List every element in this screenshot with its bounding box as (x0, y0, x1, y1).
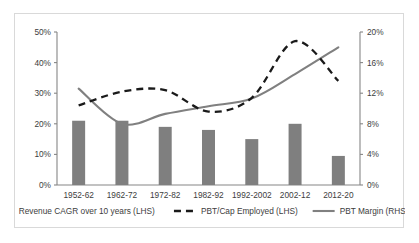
line-series-pbt-margin (79, 47, 339, 124)
x-axis-category-labels: 1952-621962-721972-821982-921992-2002200… (63, 190, 354, 200)
chart-legend: Revenue CAGR over 10 years (LHS)PBT/Cap … (15, 206, 405, 216)
right-tick-label: 8% (367, 119, 380, 129)
legend-label: PBT Margin (RHS) (340, 206, 405, 216)
category-label: 1952-62 (63, 190, 94, 200)
right-axis-ticks: 0%4%8%12%16%20% (360, 27, 384, 190)
category-label: 2002-12 (280, 190, 311, 200)
category-label: 1972-82 (150, 190, 181, 200)
category-label: 1992-2002 (232, 190, 272, 200)
legend-item[interactable]: PBT/Cap Employed (LHS) (174, 206, 298, 216)
bar (289, 124, 302, 185)
chart-container: 0%10%20%30%40%50% 0%4%8%12%16%20% 1952-6… (14, 13, 404, 228)
right-tick-label: 16% (367, 58, 384, 68)
right-tick-label: 0% (367, 180, 380, 190)
left-tick-label: 0% (39, 180, 52, 190)
left-tick-label: 10% (34, 149, 51, 159)
category-label: 1962-72 (107, 190, 138, 200)
bar-series-revenue-cagr (72, 121, 345, 185)
bar (159, 127, 172, 185)
chart-plot-area: 0%10%20%30%40%50% 0%4%8%12%16%20% 1952-6… (15, 14, 403, 227)
right-tick-label: 4% (367, 149, 380, 159)
line-series-pbt-cap-employed (79, 41, 339, 112)
left-tick-label: 20% (34, 119, 51, 129)
left-axis-ticks: 0%10%20%30%40%50% (34, 27, 57, 190)
category-label: 1982-92 (193, 190, 224, 200)
left-tick-label: 50% (34, 27, 51, 37)
bar (202, 130, 215, 185)
bar (72, 121, 85, 185)
legend-item[interactable]: Revenue CAGR over 10 years (LHS) (15, 206, 155, 216)
right-tick-label: 20% (367, 27, 384, 37)
bar (115, 121, 128, 185)
bar (245, 139, 258, 185)
legend-label: Revenue CAGR over 10 years (LHS) (19, 206, 155, 216)
bar (332, 156, 345, 185)
legend-item[interactable]: PBT Margin (RHS) (313, 206, 405, 216)
legend-label: PBT/Cap Employed (LHS) (201, 206, 298, 216)
chart-svg: 0%10%20%30%40%50% 0%4%8%12%16%20% 1952-6… (15, 14, 405, 229)
category-label: 2012-20 (323, 190, 354, 200)
right-tick-label: 12% (367, 88, 384, 98)
left-tick-label: 30% (34, 88, 51, 98)
left-tick-label: 40% (34, 58, 51, 68)
